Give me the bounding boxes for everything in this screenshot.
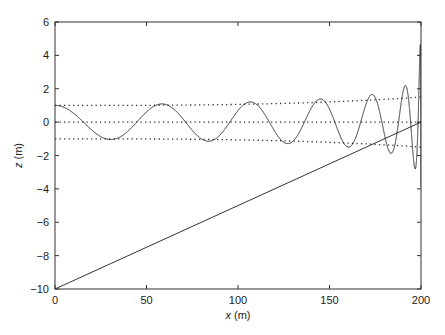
y-tick-label: 2 [43, 83, 49, 95]
y-tick-label: −10 [30, 283, 49, 295]
x-tick-label: 0 [52, 294, 58, 306]
x-axis-label: x (m) [224, 309, 250, 321]
y-tick-label: −6 [36, 216, 49, 228]
y-tick-label: −2 [36, 150, 49, 162]
y-axis-label: z (m) [12, 143, 24, 169]
y-tick-label: 6 [43, 16, 49, 28]
lower-envelope-dotted [55, 139, 421, 147]
y-tick-label: 4 [43, 49, 49, 61]
axis-ticks: 0501001502006420−2−4−6−8−10 [30, 16, 430, 306]
plot-area [55, 44, 421, 289]
wave-line [55, 44, 421, 187]
y-tick-label: −8 [36, 250, 49, 262]
x-tick-label: 150 [320, 294, 338, 306]
x-tick-label: 50 [140, 294, 152, 306]
chart: 0501001502006420−2−4−6−8−10 x (m) z (m) [0, 0, 445, 335]
axes-frame [55, 22, 421, 289]
y-tick-label: 0 [43, 116, 49, 128]
sloping-bottom-line [55, 122, 421, 289]
y-tick-label: −4 [36, 183, 49, 195]
x-tick-label: 200 [412, 294, 430, 306]
x-tick-label: 100 [229, 294, 247, 306]
